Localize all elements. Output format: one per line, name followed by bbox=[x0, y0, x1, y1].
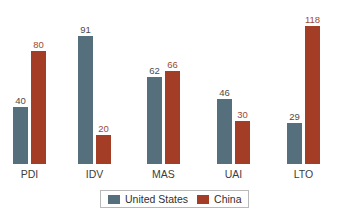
legend-swatch-us-icon bbox=[108, 195, 120, 204]
bar-value-cn-uai: 30 bbox=[237, 109, 248, 120]
category-label-idv: IDV bbox=[78, 168, 111, 180]
chart-legend: United States China bbox=[100, 190, 249, 208]
legend-label-china: China bbox=[214, 193, 241, 205]
bar-group-mas: 62 66 bbox=[147, 0, 180, 164]
legend-item-united-states[interactable]: United States bbox=[108, 193, 188, 205]
category-label-lto: LTO bbox=[287, 168, 320, 180]
bar-cn-idv[interactable] bbox=[96, 135, 111, 164]
category-label-uai: UAI bbox=[217, 168, 250, 180]
bar-cn-mas[interactable] bbox=[165, 71, 180, 164]
bar-value-us-uai: 46 bbox=[219, 87, 230, 98]
bar-us-lto[interactable] bbox=[287, 123, 302, 164]
bar-value-us-idv: 91 bbox=[80, 24, 91, 35]
bar-cn-lto[interactable] bbox=[305, 26, 320, 164]
bar-group-pdi: 40 80 bbox=[13, 0, 46, 164]
category-label-mas: MAS bbox=[147, 168, 180, 180]
bar-us-mas[interactable] bbox=[147, 77, 162, 164]
bar-value-cn-mas: 66 bbox=[167, 59, 178, 70]
bar-value-us-pdi: 40 bbox=[15, 95, 26, 106]
bar-value-cn-lto: 118 bbox=[305, 14, 320, 25]
legend-swatch-cn-icon bbox=[197, 195, 209, 204]
legend-label-united-states: United States bbox=[125, 193, 188, 205]
bar-group-lto: 29 118 bbox=[287, 0, 320, 164]
bar-group-idv: 91 20 bbox=[78, 0, 111, 164]
bar-us-idv[interactable] bbox=[78, 36, 93, 164]
legend-item-china[interactable]: China bbox=[197, 193, 241, 205]
bar-group-uai: 46 30 bbox=[217, 0, 250, 164]
bar-cn-uai[interactable] bbox=[235, 121, 250, 164]
bar-value-us-lto: 29 bbox=[289, 111, 300, 122]
bar-value-cn-idv: 20 bbox=[98, 123, 109, 134]
category-label-pdi: PDI bbox=[13, 168, 46, 180]
bar-cn-pdi[interactable] bbox=[31, 51, 46, 164]
bar-value-cn-pdi: 80 bbox=[33, 39, 44, 50]
plot-area: 40 80 PDI 91 20 IDV 62 bbox=[0, 0, 342, 164]
bar-value-us-mas: 62 bbox=[149, 65, 160, 76]
bar-us-uai[interactable] bbox=[217, 99, 232, 164]
bar-us-pdi[interactable] bbox=[13, 107, 28, 164]
bar-chart: 40 80 PDI 91 20 IDV 62 bbox=[0, 0, 342, 215]
